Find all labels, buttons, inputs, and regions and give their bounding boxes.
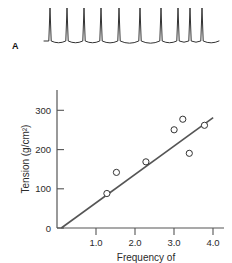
data-point-marker bbox=[186, 150, 192, 156]
y-axis-title: Tension (g/cm²) bbox=[20, 125, 31, 194]
spike-train-trace bbox=[44, 8, 219, 43]
x-axis-title: Frequency of bbox=[117, 252, 176, 263]
data-point-marker bbox=[143, 159, 149, 165]
y-tick-label-100: 100 bbox=[35, 183, 51, 194]
regression-line bbox=[61, 118, 213, 228]
panel-label-a: A bbox=[12, 41, 19, 51]
data-point-marker bbox=[104, 190, 110, 196]
x-tick-label-1: 1.0 bbox=[89, 237, 102, 248]
y-tick-label-200: 200 bbox=[35, 144, 51, 155]
x-tick-label-4: 4.0 bbox=[206, 237, 219, 248]
x-tick-label-3: 3.0 bbox=[167, 237, 180, 248]
y-tick-label-300: 300 bbox=[35, 105, 51, 116]
data-point-marker bbox=[171, 127, 177, 133]
y-tick-label-0: 0 bbox=[46, 223, 51, 234]
data-point-marker bbox=[113, 169, 119, 175]
plot-area: 300 200 100 0 1.0 2.0 3.0 4.0 Tension (g… bbox=[20, 90, 224, 263]
figure-canvas: 300 200 100 0 1.0 2.0 3.0 4.0 Tension (g… bbox=[0, 0, 232, 263]
x-tick-label-2: 2.0 bbox=[128, 237, 141, 248]
y-axis-ticks bbox=[57, 110, 64, 228]
data-point-group bbox=[104, 116, 208, 196]
data-point-marker bbox=[180, 116, 186, 122]
x-axis-ticks bbox=[96, 228, 213, 235]
data-point-marker bbox=[201, 122, 207, 128]
figure-panel-a: A 3 bbox=[0, 0, 232, 263]
